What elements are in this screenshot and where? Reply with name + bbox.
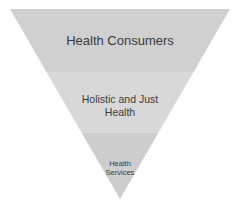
level-label-health-services: Health Services: [90, 159, 150, 177]
level-label-health-consumers: Health Consumers: [20, 33, 220, 49]
label-line: Holistic and Just: [55, 93, 185, 106]
label-line: Health: [90, 159, 150, 168]
label-line: Health Consumers: [20, 33, 220, 49]
label-line: Health: [55, 106, 185, 119]
label-line: Services: [90, 168, 150, 177]
level-label-holistic-and-just-health: Holistic and Just Health: [55, 93, 185, 118]
